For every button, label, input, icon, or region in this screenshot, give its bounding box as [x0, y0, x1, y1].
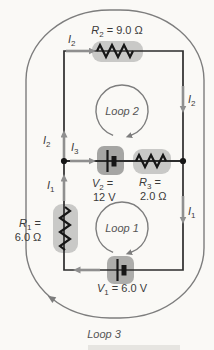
- circuit-svg: R2 = 9.0 Ω I2 I2 I2 I3 I1 I1 V2 = 12 V R…: [0, 0, 214, 350]
- circuit-diagram: R2 = 9.0 Ω I2 I2 I2 I3 I1 I1 V2 = 12 V R…: [0, 0, 214, 350]
- label-v2-line2: 12 V: [93, 191, 116, 203]
- label-i2-right: I2: [188, 93, 196, 108]
- label-i3: I3: [71, 141, 79, 156]
- label-loop1: Loop 1: [105, 222, 139, 234]
- label-i1-right: I1: [188, 205, 196, 220]
- left-junction-node: [61, 158, 67, 164]
- right-junction-node: [180, 158, 186, 164]
- label-i1-left: I1: [47, 179, 55, 194]
- label-loop2: Loop 2: [105, 105, 139, 117]
- label-loop3: Loop 3: [87, 328, 122, 340]
- label-r1-line1: R1 =: [19, 217, 41, 232]
- label-r3-line2: 2.0 Ω: [140, 190, 167, 202]
- label-v1: V1 = 6.0 V: [97, 282, 148, 297]
- label-r2: R2 = 9.0 Ω: [91, 24, 143, 39]
- label-i2-left: I2: [43, 134, 51, 149]
- label-i2-top: I2: [68, 33, 76, 48]
- label-v2-line1: V2 =: [92, 177, 113, 192]
- page-edge-artifact: [88, 345, 180, 350]
- label-r3-line1: R3 =: [139, 176, 161, 191]
- label-r1-line2: 6.0 Ω: [15, 231, 42, 243]
